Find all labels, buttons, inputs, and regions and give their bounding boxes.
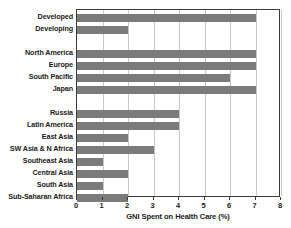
bar <box>77 86 256 94</box>
plot-area <box>76 9 280 197</box>
category-label: Southeast Asia <box>0 157 73 165</box>
category-label: Europe <box>0 61 73 69</box>
category-label: South Asia <box>0 181 73 189</box>
bar <box>77 122 179 130</box>
x-tick-label: 0 <box>74 201 78 210</box>
bar-chart: DevelopedDevelopingNorth AmericaEuropeSo… <box>0 0 291 228</box>
category-label: Japan <box>0 85 73 93</box>
x-tick-mark <box>255 197 256 200</box>
x-tick-label: 6 <box>227 201 231 210</box>
x-tick-label: 3 <box>150 201 154 210</box>
x-tick-mark <box>229 197 230 200</box>
category-labels: DevelopedDevelopingNorth AmericaEuropeSo… <box>0 9 73 197</box>
x-tick-label: 7 <box>252 201 256 210</box>
gridline <box>281 10 282 196</box>
bar <box>77 26 128 34</box>
bar <box>77 50 256 58</box>
category-label: Developed <box>0 13 73 21</box>
category-label: South Pacific <box>0 73 73 81</box>
x-tick-label: 8 <box>278 201 282 210</box>
category-label: East Asia <box>0 133 73 141</box>
x-tick-mark <box>76 197 77 200</box>
category-label: Russia <box>0 109 73 117</box>
x-axis-title: GNI Spent on Health Care (%) <box>76 212 280 221</box>
category-label: Sub-Saharan Africa <box>0 193 73 201</box>
x-tick-label: 1 <box>99 201 103 210</box>
bars-layer <box>77 10 279 196</box>
x-tick-mark <box>178 197 179 200</box>
category-label: Central Asia <box>0 169 73 177</box>
x-axis-ticks: 012345678 <box>76 197 280 209</box>
x-tick-label: 5 <box>201 201 205 210</box>
bar <box>77 110 179 118</box>
bar <box>77 146 154 154</box>
x-tick-mark <box>127 197 128 200</box>
bar <box>77 170 128 178</box>
category-label: Developing <box>0 25 73 33</box>
bar <box>77 14 256 22</box>
category-label: SW Asia & N Africa <box>0 145 73 153</box>
x-tick-mark <box>102 197 103 200</box>
bar <box>77 158 103 166</box>
x-tick-mark <box>153 197 154 200</box>
category-label: Latin America <box>0 121 73 129</box>
x-tick-mark <box>204 197 205 200</box>
x-tick-mark <box>280 197 281 200</box>
bar <box>77 134 128 142</box>
bar <box>77 182 103 190</box>
bar <box>77 74 230 82</box>
bar <box>77 62 256 70</box>
x-tick-label: 2 <box>125 201 129 210</box>
x-tick-label: 4 <box>176 201 180 210</box>
category-label: North America <box>0 49 73 57</box>
